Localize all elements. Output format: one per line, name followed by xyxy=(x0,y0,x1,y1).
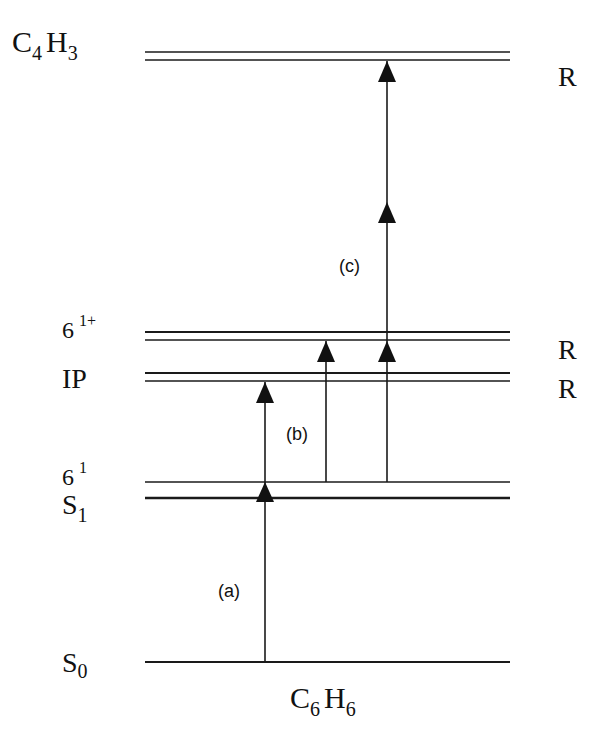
arrowhead-icon xyxy=(378,61,396,82)
right-label-6-1-plus: R xyxy=(558,334,577,365)
arrowhead-icon xyxy=(378,341,396,362)
level-c4h3 xyxy=(145,52,510,60)
label-c4h3: C4H3 xyxy=(12,25,78,64)
arrowhead-icon xyxy=(256,382,274,403)
transition-b-label: (b) xyxy=(286,424,308,444)
transition-a-label: (a) xyxy=(218,581,240,601)
level-6-1-plus xyxy=(145,332,510,340)
arrowhead-icon xyxy=(256,482,274,502)
level-ip xyxy=(145,373,510,381)
transition-c-label: (c) xyxy=(339,256,360,276)
right-label-ip: R xyxy=(558,373,577,404)
label-s1: S1 xyxy=(62,489,88,526)
label-ip: IP xyxy=(62,363,87,394)
label-s0: S0 xyxy=(62,647,88,682)
arrowhead-icon xyxy=(317,341,335,362)
arrowhead-icon xyxy=(378,202,396,223)
molecule-label-c6h6: C6H6 xyxy=(290,681,356,720)
label-6-1-plus: 61+ xyxy=(62,312,96,343)
label-6-1: 61 xyxy=(62,459,87,490)
right-label-c4h3: R xyxy=(558,61,577,92)
energy-level-diagram: C4H3 61+ IP 61 S1 S0 R R R (a) (b) (c) C… xyxy=(0,0,607,750)
